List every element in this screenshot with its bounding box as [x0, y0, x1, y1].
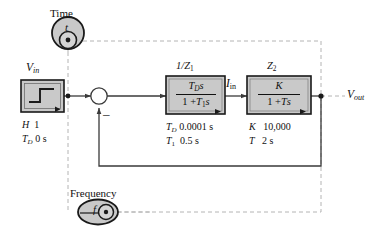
z1-caption-subscript: 1 — [190, 64, 194, 73]
frequency-source-symbol: f — [93, 204, 96, 215]
frequency-source-icon[interactable] — [78, 200, 118, 225]
signal-iin-subscript: in — [230, 82, 236, 91]
signal-vout-subscript: out — [354, 93, 364, 102]
input-junction-dot — [66, 94, 71, 99]
param-z2-k-value: 10,000 — [263, 121, 291, 132]
param-z2-t-name: T — [249, 135, 255, 146]
feedback-minus-sign: – — [103, 106, 110, 122]
z2-denominator: 1 +Ts — [258, 95, 300, 109]
param-step-td-subscript: D — [28, 138, 33, 146]
summing-junction[interactable] — [91, 88, 107, 104]
z1-denominator: 1 +T1s — [176, 95, 216, 109]
time-source-label: Time — [50, 8, 73, 19]
step-input-block[interactable] — [21, 80, 64, 112]
signal-vin-name: V — [26, 61, 33, 73]
signal-vout-name: V — [347, 88, 354, 100]
output-junction-dot — [318, 93, 323, 98]
z2-den-suffix: s — [287, 96, 291, 107]
param-step-td: TD 0 s — [22, 134, 47, 146]
signal-label-vout: Vout — [347, 89, 364, 102]
param-step-h-name: H — [22, 119, 29, 130]
param-z1-t1: T1 0.5 s — [166, 136, 199, 148]
param-z1-td: TD 0.0001 s — [166, 122, 213, 134]
signal-label-vin: Vin — [26, 62, 39, 75]
block-caption-z2: Z2 — [267, 61, 277, 72]
param-z2-t-value: 2 s — [262, 135, 273, 146]
z1-den-lead: 1 + — [182, 96, 196, 107]
transfer-function-z2: K 1 +Ts — [258, 80, 300, 110]
param-z1-t1-value: 0.5 s — [180, 135, 199, 146]
z2-caption-subscript: 2 — [273, 64, 277, 73]
block-diagram-canvas: Time t Frequency f Vin Iin Vout – 1/Z1 T… — [0, 0, 382, 251]
signal-label-iin: Iin — [226, 78, 236, 91]
param-step-h: H 1 — [22, 120, 39, 132]
z1-caption-prefix: 1/ — [176, 60, 184, 71]
param-z1-td-value: 0.0001 s — [179, 121, 213, 132]
param-z1-td-subscript: D — [172, 126, 177, 134]
param-z2-k-name: K — [249, 121, 256, 132]
param-z1-t1-subscript: 1 — [172, 140, 176, 148]
param-z2-t: T 2 s — [249, 136, 273, 148]
time-source-symbol: t — [65, 22, 68, 33]
z1-numerator: TDs — [176, 80, 216, 95]
z1-num-suffix: s — [200, 80, 204, 91]
param-z2-k: K 10,000 — [249, 122, 291, 134]
z2-num-name: K — [275, 80, 282, 91]
param-step-td-value: 0 s — [35, 133, 46, 144]
frequency-source-label: Frequency — [70, 188, 116, 199]
param-step-h-value: 1 — [34, 119, 39, 130]
z2-numerator: K — [258, 80, 300, 95]
z1-den-suffix: s — [206, 96, 210, 107]
signal-vin-subscript: in — [33, 66, 39, 75]
transfer-function-z1-inverse: TDs 1 +T1s — [176, 80, 216, 110]
z2-den-lead: 1 + — [267, 96, 281, 107]
block-caption-z1-inverse: 1/Z1 — [176, 61, 194, 72]
